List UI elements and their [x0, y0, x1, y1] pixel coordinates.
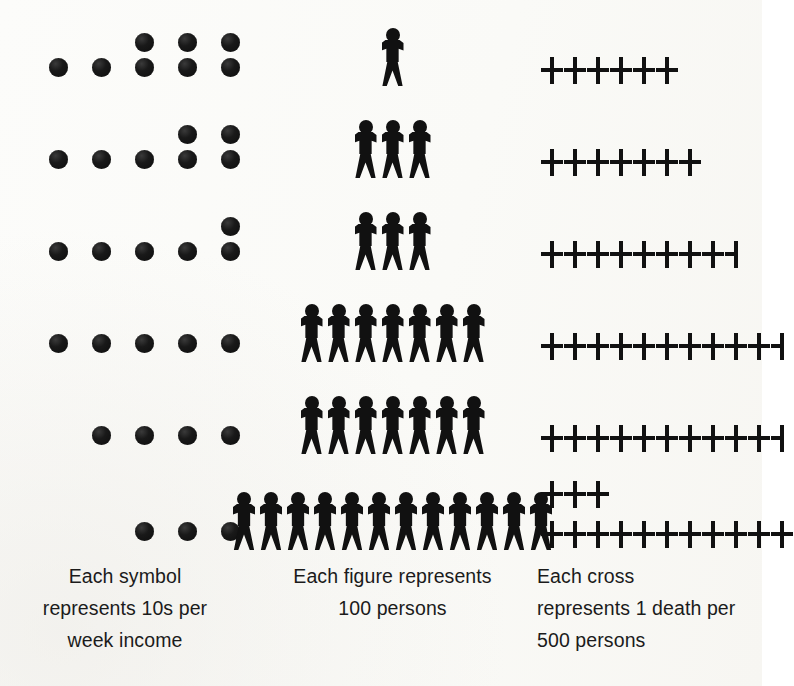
- persons-figure-line: [250, 488, 535, 550]
- figure-head: [413, 212, 427, 226]
- figure-torso: [260, 504, 282, 526]
- cross-icon: [610, 331, 633, 361]
- deaths-cross-line: [541, 234, 768, 274]
- person-figure-icon: [393, 492, 419, 550]
- figure-torso: [436, 316, 458, 338]
- empty-slot: [135, 217, 154, 236]
- figure-legs: [314, 524, 336, 550]
- cross-icon: [748, 331, 771, 361]
- cross-horizontal-bar: [633, 344, 655, 348]
- person-figure-icon: [339, 492, 365, 550]
- circle-icon: [92, 334, 111, 353]
- persons-figure-line: [250, 300, 535, 362]
- circle-icon: [135, 150, 154, 169]
- figure-head: [413, 396, 427, 410]
- figure-torso: [355, 316, 377, 338]
- cross-horizontal-bar: [541, 436, 563, 440]
- cross-horizontal-bar: [748, 344, 770, 348]
- circle-icon: [178, 125, 197, 144]
- figure-head: [440, 396, 454, 410]
- cross-icon: [541, 55, 564, 85]
- figure-legs: [436, 428, 458, 454]
- figure-head: [332, 396, 346, 410]
- figure-legs: [382, 60, 404, 86]
- income-symbol-slot: [37, 331, 80, 356]
- cross-horizontal-bar: [541, 532, 563, 536]
- income-symbol-slot: [123, 519, 166, 544]
- persons-row: [250, 300, 535, 362]
- person-figure-icon: [474, 492, 500, 550]
- person-figure-icon: [353, 212, 379, 270]
- figure-head: [507, 492, 521, 506]
- income-symbol-slot: [209, 239, 252, 264]
- caption-persons-line1: Each figure represents: [250, 560, 535, 592]
- figure-torso: [409, 408, 431, 430]
- figure-legs: [463, 336, 485, 362]
- circle-icon: [135, 242, 154, 261]
- figure-legs: [355, 336, 377, 362]
- cross-icon: [633, 239, 656, 269]
- cross-horizontal-bar: [587, 436, 609, 440]
- cross-horizontal-bar: [656, 160, 678, 164]
- cross-horizontal-bar: [679, 252, 701, 256]
- income-symbol-slot: [37, 239, 80, 264]
- deaths-row: [535, 142, 768, 182]
- income-symbol-slot: [80, 214, 123, 239]
- cross-icon: [564, 55, 587, 85]
- income-row: [0, 423, 287, 448]
- cross-icon: [541, 479, 564, 509]
- figure-torso: [355, 408, 377, 430]
- person-figure-icon: [299, 396, 325, 454]
- person-figure-icon: [380, 304, 406, 362]
- cross-icon: [633, 423, 656, 453]
- cross-icon: [725, 423, 748, 453]
- figure-legs: [463, 428, 485, 454]
- circle-icon: [135, 58, 154, 77]
- empty-slot: [49, 33, 68, 52]
- income-symbol-slot: [80, 239, 123, 264]
- cross-horizontal-bar: [702, 344, 724, 348]
- caption-deaths-line3: 500 persons: [537, 624, 762, 656]
- figure-head: [386, 28, 400, 42]
- figure-torso: [328, 408, 350, 430]
- persons-figure-line: [250, 208, 535, 270]
- empty-slot: [135, 125, 154, 144]
- income-symbol-slot: [123, 147, 166, 172]
- income-symbol-slot: [166, 239, 209, 264]
- circle-icon: [178, 150, 197, 169]
- cross-icon: [702, 519, 725, 549]
- income-symbol-slot: [37, 214, 80, 239]
- figure-torso: [382, 316, 404, 338]
- cross-horizontal-bar: [564, 252, 586, 256]
- cross-horizontal-bar: [564, 68, 586, 72]
- cross-icon: [564, 331, 587, 361]
- cross-horizontal-bar: [610, 344, 632, 348]
- cross-icon: [541, 519, 564, 549]
- cross-horizontal-bar: [587, 532, 609, 536]
- deaths-row: [535, 50, 768, 90]
- cross-horizontal-bar: [656, 252, 678, 256]
- cross-horizontal-bar: [564, 436, 586, 440]
- cross-horizontal-bar: [541, 344, 563, 348]
- cross-horizontal-bar: [656, 344, 678, 348]
- income-symbol-slot: [80, 147, 123, 172]
- cross-icon: [679, 519, 702, 549]
- cross-icon: [656, 423, 679, 453]
- cross-icon: [679, 331, 702, 361]
- person-figure-icon: [380, 120, 406, 178]
- person-figure-icon: [353, 396, 379, 454]
- cross-icon: [656, 331, 679, 361]
- cross-icon: [725, 331, 748, 361]
- figure-head: [359, 120, 373, 134]
- empty-slot: [92, 125, 111, 144]
- circle-icon: [221, 217, 240, 236]
- cross-horizontal-bar: [748, 532, 770, 536]
- income-symbol-slot: [166, 214, 209, 239]
- figure-legs: [355, 244, 377, 270]
- person-figure-icon: [326, 304, 352, 362]
- person-figure-icon: [353, 120, 379, 178]
- figure-torso: [382, 408, 404, 430]
- income-symbol-slot: [37, 30, 80, 55]
- cross-icon: [748, 423, 771, 453]
- circle-icon: [178, 334, 197, 353]
